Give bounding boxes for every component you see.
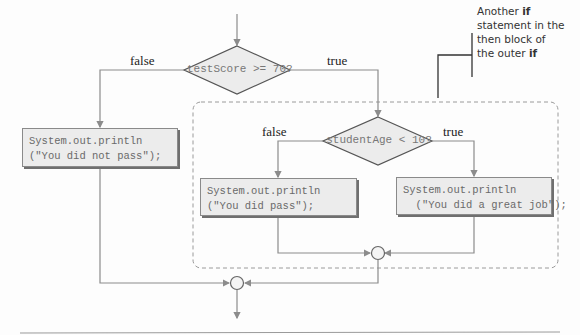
callout-keyword: if <box>529 47 537 59</box>
statement-line: System.out.println <box>29 134 171 149</box>
statement-line: ("You did pass"); <box>207 199 350 214</box>
callout-text: then block of <box>477 32 565 46</box>
flowchart-diagram: testScore >= 70? studentAge < 10? false … <box>0 0 580 335</box>
callout-text: statement in the <box>477 18 565 32</box>
statement-line: ("You did a great job"); <box>403 198 545 213</box>
callout-text: the outer <box>477 47 529 59</box>
bottom-divider <box>20 332 560 333</box>
inner-false-label: false <box>262 124 287 140</box>
statement-line: System.out.println <box>403 183 545 198</box>
callout-text: Another <box>477 5 522 17</box>
callout-keyword: if <box>522 5 530 17</box>
statement-line: ("You did not pass"); <box>29 149 171 164</box>
outer-condition-text: testScore >= 70? <box>187 63 291 75</box>
callout-pointer <box>438 55 472 98</box>
statement-box-great-job: System.out.println ("You did a great job… <box>396 177 552 215</box>
inner-condition-text: studentAge < 10? <box>324 134 434 146</box>
outer-merge-node <box>231 277 244 290</box>
statement-box-pass: System.out.println ("You did pass"); <box>200 178 357 216</box>
statement-line: System.out.println <box>207 184 350 199</box>
inner-merge-node <box>372 247 385 260</box>
outer-false-label: false <box>130 53 155 69</box>
outer-true-label: true <box>327 53 347 69</box>
callout-annotation: Another if statement in the then block o… <box>477 4 565 60</box>
statement-box-not-pass: System.out.println ("You did not pass"); <box>22 128 178 167</box>
inner-true-label: true <box>443 124 463 140</box>
